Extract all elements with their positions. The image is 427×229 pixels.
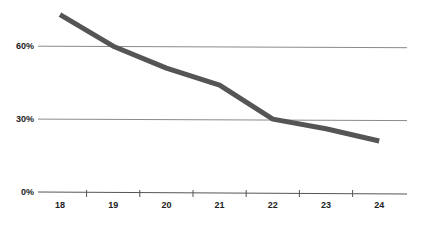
gridlines (38, 46, 407, 194)
line-chart: 0%30%60% 18192021222324 (0, 0, 427, 229)
x-axis-line (38, 192, 407, 194)
y-axis-labels: 0%30%60% (16, 41, 34, 197)
series-line (60, 15, 379, 141)
y-tick-label: 0% (21, 187, 34, 197)
x-tick-label: 20 (161, 200, 171, 210)
gridline (38, 46, 407, 48)
x-tick-label: 18 (55, 200, 65, 210)
x-tick-label: 22 (268, 200, 278, 210)
x-tick-label: 24 (374, 200, 384, 210)
x-tick-label: 23 (321, 200, 331, 210)
x-tick-label: 19 (108, 200, 118, 210)
y-tick-label: 60% (16, 41, 34, 51)
gridline (38, 119, 407, 121)
y-tick-label: 30% (16, 114, 34, 124)
x-tick-label: 21 (215, 200, 225, 210)
data-series (60, 15, 379, 141)
